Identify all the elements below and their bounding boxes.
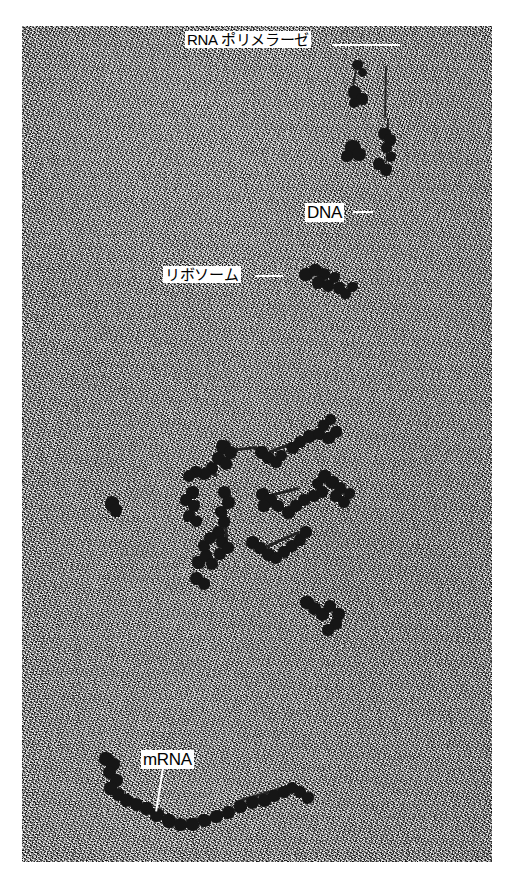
ribosome-particle <box>276 450 287 461</box>
ribosome-particle <box>206 558 218 570</box>
ribosome-particle <box>258 500 270 512</box>
leader-line-rna-polymerase <box>332 44 400 46</box>
ribosome-particle <box>322 624 334 636</box>
leader-line-ribosome <box>255 275 283 277</box>
ribosome-particle <box>341 150 353 162</box>
plate-shading <box>22 26 492 862</box>
ribosome-particle <box>191 516 202 527</box>
ribosome-particle <box>352 148 366 161</box>
electron-micrograph-plate <box>22 26 492 862</box>
label-rna-polymerase: RNA ポリメラーゼ <box>185 31 311 48</box>
label-ribosome: リボソーム <box>163 266 241 283</box>
ribosome-particle <box>358 68 367 77</box>
ribosome-particle <box>110 504 122 517</box>
ribosome-particle <box>300 526 312 538</box>
ribosome-particle <box>183 470 195 482</box>
label-dna: DNA <box>305 203 344 222</box>
ribosome-particle <box>330 426 342 438</box>
ribosome-particle <box>204 532 216 544</box>
label-mrna: mRNA <box>141 750 194 769</box>
ribosome-particle <box>325 414 336 425</box>
ribosome-particle <box>220 458 232 470</box>
ribosome-particle <box>344 488 355 499</box>
ribosome-particle <box>222 542 234 554</box>
ribosome-particle <box>349 98 359 108</box>
figure-root: RNA ポリメラーゼDNAリボソームmRNA <box>0 0 516 886</box>
leader-line-dna <box>353 211 373 213</box>
ribosome-particle <box>198 578 210 590</box>
